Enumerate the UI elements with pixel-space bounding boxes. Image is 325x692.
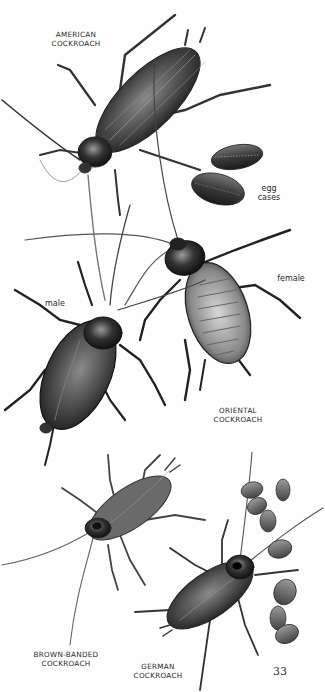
label-egg-cases: egg cases [254, 184, 284, 202]
label-line: COCKROACH [200, 415, 276, 424]
label-line: BROWN-BANDED [22, 650, 110, 659]
label-line: COCKROACH [22, 659, 110, 668]
label-male: male [42, 299, 68, 308]
label-brown-banded-cockroach: BROWN-BANDED COCKROACH [22, 650, 110, 668]
label-line: cases [254, 193, 284, 202]
label-oriental-cockroach: ORIENTAL COCKROACH [200, 406, 276, 424]
label-american-cockroach: AMERICAN COCKROACH [40, 30, 112, 48]
label-line: GERMAN [122, 662, 194, 671]
label-female: female [276, 274, 306, 283]
label-line: COCKROACH [122, 671, 194, 680]
label-line: ORIENTAL [200, 406, 276, 415]
label-line: COCKROACH [40, 39, 112, 48]
label-line: egg [254, 184, 284, 193]
label-line: AMERICAN [40, 30, 112, 39]
book-page: AMERICAN COCKROACH egg cases female male… [0, 0, 325, 692]
page-number: 33 [273, 665, 287, 678]
label-german-cockroach: GERMAN COCKROACH [122, 662, 194, 680]
cockroach-illustration [0, 0, 325, 692]
